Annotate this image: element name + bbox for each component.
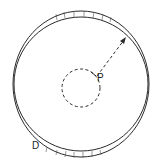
- point-marker: [91, 72, 96, 76]
- ring-hatching: [46, 11, 111, 158]
- outer-circle: [13, 11, 149, 157]
- label-p: P: [97, 72, 104, 83]
- arrowhead-icon: [120, 37, 126, 44]
- outer-ring: [13, 11, 149, 157]
- diagram-canvas: P D: [0, 0, 158, 166]
- inner-circle: [14, 17, 148, 151]
- label-d: D: [32, 140, 39, 151]
- radius-arrow-line: [97, 40, 124, 76]
